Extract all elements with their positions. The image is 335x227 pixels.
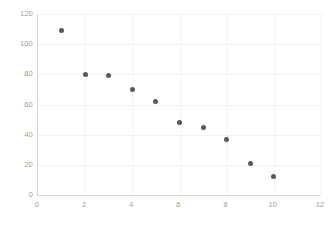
gridline-vertical <box>132 14 133 195</box>
x-tick-label: 2 <box>69 201 99 209</box>
data-point <box>224 137 229 142</box>
x-tick-label: 6 <box>164 201 194 209</box>
scatter-chart: 020406080100120 024681012 <box>0 0 335 227</box>
gridline-vertical <box>274 14 275 195</box>
data-point <box>106 73 111 78</box>
y-tick-label: 0 <box>3 191 33 199</box>
gridline-vertical <box>321 14 322 195</box>
data-point <box>153 99 158 104</box>
x-tick-label: 8 <box>211 201 241 209</box>
data-point <box>130 87 135 92</box>
data-point <box>201 125 206 130</box>
gridline-vertical <box>85 14 86 195</box>
plot-area <box>37 14 321 196</box>
data-point <box>248 161 253 166</box>
x-tick-label: 10 <box>258 201 288 209</box>
y-tick-label: 80 <box>3 70 33 78</box>
y-tick-label: 60 <box>3 101 33 109</box>
x-axis: 024681012 <box>37 201 321 215</box>
data-point <box>59 28 64 33</box>
data-point <box>177 120 182 125</box>
gridline-vertical <box>227 14 228 195</box>
y-tick-label: 40 <box>3 131 33 139</box>
x-tick-label: 12 <box>305 201 335 209</box>
y-tick-label: 120 <box>3 10 33 18</box>
gridline-vertical <box>180 14 181 195</box>
y-axis: 020406080100120 <box>0 14 33 196</box>
y-tick-label: 100 <box>3 40 33 48</box>
data-point <box>271 174 276 179</box>
y-tick-label: 20 <box>3 161 33 169</box>
x-tick-label: 4 <box>116 201 146 209</box>
data-point <box>83 72 88 77</box>
x-tick-label: 0 <box>22 201 52 209</box>
